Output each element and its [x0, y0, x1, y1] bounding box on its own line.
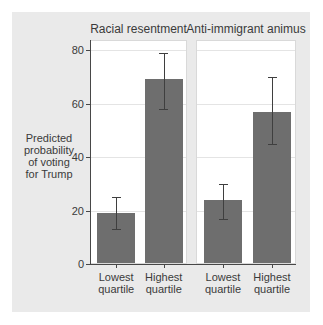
error-bar-line [116, 197, 117, 229]
error-bar-cap-low [159, 109, 168, 110]
error-bar-cap-high [112, 197, 121, 198]
y-tick-label-20: 20 [12, 205, 84, 216]
y-tick-label-80: 80 [12, 45, 84, 56]
x-category-label: Highest quartile [132, 271, 196, 295]
error-bar-line [272, 77, 273, 144]
x-category-label: Highest quartile [240, 271, 304, 295]
y-axis-line [90, 40, 91, 264]
error-bar-cap-high [159, 53, 168, 54]
error-bar-cap-low [219, 219, 228, 220]
panel-plot-area [90, 40, 187, 264]
error-bar-cap-high [219, 184, 228, 185]
x-axis-line [90, 264, 296, 265]
panel-title: Anti-immigrant animus [186, 22, 305, 36]
error-bar-cap-low [268, 144, 277, 145]
screenshot-root: { "chart_data": { "type": "bar", "title"… [0, 0, 323, 325]
panel-title: Racial resentment [90, 22, 187, 36]
gridline-60 [196, 104, 296, 105]
error-bar-cap-high [268, 77, 277, 78]
bar-chart-figure: Predicted probability of voting for Trum… [12, 12, 310, 312]
y-tick-label-60: 60 [12, 98, 84, 109]
y-tick-label-0: 0 [12, 259, 84, 270]
error-bar-cap-low [112, 229, 121, 230]
panel-plot-area [196, 40, 296, 264]
gridline-80 [90, 50, 187, 51]
error-bar-line [164, 53, 165, 109]
error-bar-line [223, 184, 224, 219]
gridline-80 [196, 50, 296, 51]
y-tick-label-40: 40 [12, 152, 84, 163]
